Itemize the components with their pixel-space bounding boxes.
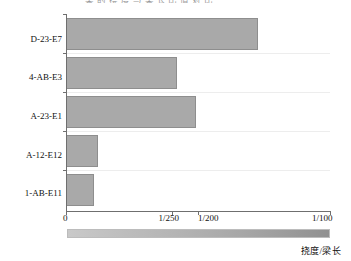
- y-axis-label-a-12-e12: A-12-E12: [2, 150, 62, 160]
- x-tick-label-1-100: 1/100: [312, 213, 333, 223]
- chart-figure: 梁 的 挠 度 与 梁 长 比 值 对 比 梁编号 D-23-E7 4-AB-E…: [0, 0, 351, 261]
- y-axis-label-a-23-e1: A-23-E1: [2, 111, 62, 121]
- x-tick-label-1-250: 1/250: [159, 213, 180, 223]
- bar-a-23-e1[interactable]: [66, 96, 196, 128]
- gridline: [66, 53, 330, 54]
- y-axis-line: [66, 14, 67, 212]
- y-axis-labels: D-23-E7 4-AB-E3 A-23-E1 A-12-E12 1-AB-E1…: [0, 14, 62, 211]
- bar-1-ab-e11[interactable]: [66, 174, 94, 206]
- x-tick-label-1-200: 1/200: [198, 213, 219, 223]
- colorbar-label: 挠度/梁长: [301, 244, 341, 257]
- gridline: [66, 131, 330, 132]
- y-axis-label-4-ab-e3: 4-AB-E3: [2, 72, 62, 82]
- plot-area: [66, 14, 330, 211]
- y-axis-label-d-23-e7: D-23-E7: [2, 34, 62, 44]
- bar-a-12-e12[interactable]: [66, 135, 98, 167]
- gridline: [66, 170, 330, 171]
- x-tick-label-0: 0: [63, 213, 68, 223]
- chart-title-clipped: 梁 的 挠 度 与 梁 长 比 值 对 比: [85, 0, 345, 3]
- colorbar-gradient: [67, 229, 330, 238]
- gridline: [66, 92, 330, 93]
- y-axis-label-1-ab-e11: 1-AB-E11: [2, 188, 62, 198]
- bar-d-23-e7[interactable]: [66, 18, 258, 50]
- bar-4-ab-e3[interactable]: [66, 57, 177, 89]
